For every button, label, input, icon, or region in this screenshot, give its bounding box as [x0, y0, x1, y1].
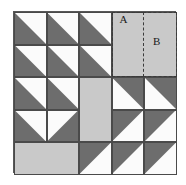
solid-block-bottom-left-square	[14, 142, 79, 175]
cell-triangle-r3-c1	[14, 77, 47, 110]
cell-triangle-r5-c3	[79, 142, 112, 175]
cell-triangle-r4-c5	[144, 110, 177, 143]
region-label-B: B	[153, 36, 160, 47]
solid-block-center-square	[79, 77, 112, 142]
cell-triangle-r2-c1	[14, 45, 47, 78]
quilt-grid: AB	[13, 11, 176, 173]
cell-triangle-r5-c5	[144, 142, 177, 175]
cell-triangle-r3-c4	[112, 77, 145, 110]
cell-triangle-r3-c2	[47, 77, 80, 110]
region-label-A: A	[120, 14, 128, 25]
cell-triangle-r4-c4	[112, 110, 145, 143]
cell-triangle-r2-c3	[79, 45, 112, 78]
cell-triangle-r3-c5	[144, 77, 177, 110]
quilt-diagram: AB	[0, 0, 186, 185]
cell-triangle-r5-c4	[112, 142, 145, 175]
cell-triangle-r4-c1	[14, 110, 47, 143]
cell-triangle-r4-c2	[47, 110, 80, 143]
cell-triangle-r1-c1	[14, 12, 47, 45]
cell-triangle-r2-c2	[47, 45, 80, 78]
cell-triangle-r1-c3	[79, 12, 112, 45]
cell-triangle-r1-c2	[47, 12, 80, 45]
